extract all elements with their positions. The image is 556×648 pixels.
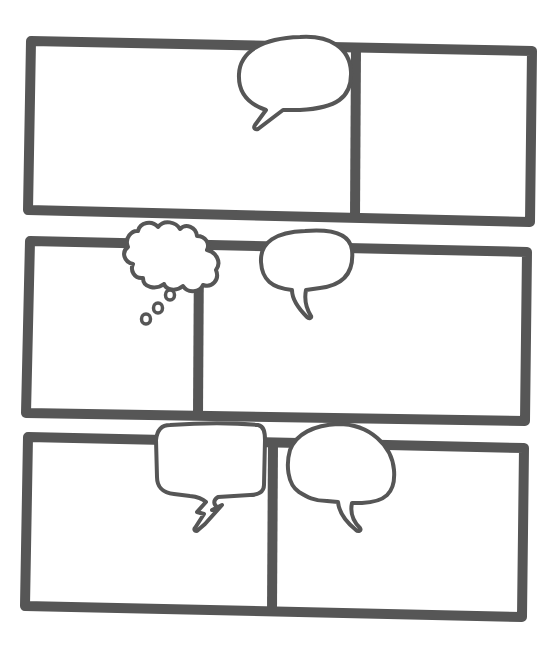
panel-frames (25, 41, 532, 617)
panel-divider (355, 46, 356, 218)
panel-2-right[interactable] (198, 245, 527, 421)
thought-dot (166, 290, 175, 300)
comic-page: Blank comic page template (0, 0, 556, 648)
thought-dot (154, 303, 163, 313)
panel-divider (272, 442, 273, 612)
comic-page-canvas (0, 0, 556, 648)
row-3 (25, 437, 524, 617)
thought-dot (142, 314, 151, 324)
panel-1-right[interactable] (355, 46, 532, 222)
